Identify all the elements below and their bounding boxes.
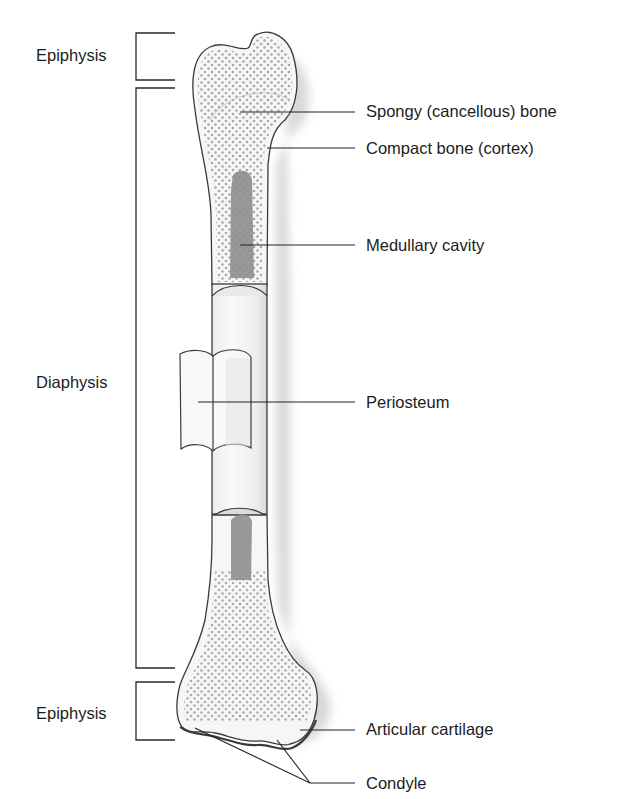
label-diaphysis: Diaphysis	[36, 372, 108, 392]
medullary-cavity-upper	[230, 171, 254, 278]
label-medullary-cavity: Medullary cavity	[366, 235, 484, 255]
bracket-diaphysis	[136, 88, 175, 668]
region-brackets	[136, 33, 175, 740]
lower-bone	[177, 514, 317, 749]
bracket-epiphysis-top	[136, 33, 175, 80]
label-epiphysis-bottom: Epiphysis	[36, 703, 107, 723]
label-condyle: Condyle	[366, 773, 427, 793]
label-articular-cartilage: Articular cartilage	[366, 719, 493, 739]
label-spongy-bone: Spongy (cancellous) bone	[366, 101, 557, 121]
bone-shadow	[276, 55, 331, 745]
label-compact-bone: Compact bone (cortex)	[366, 138, 534, 158]
diaphysis-shaft	[180, 284, 267, 518]
bracket-epiphysis-bottom	[136, 682, 175, 740]
label-epiphysis-top: Epiphysis	[36, 45, 107, 65]
medullary-cavity-lower	[231, 514, 252, 580]
label-periosteum: Periosteum	[366, 392, 449, 412]
